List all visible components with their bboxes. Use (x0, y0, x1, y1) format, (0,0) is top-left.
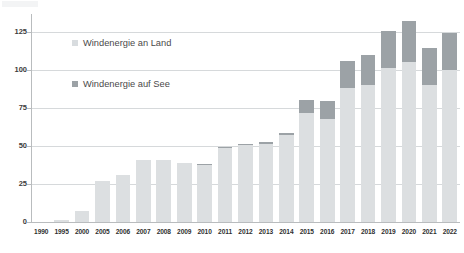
bar-2018 (361, 55, 376, 222)
bar-segment-land-1995 (54, 220, 69, 222)
bar-segment-land-2015 (299, 113, 314, 222)
bar-2014 (279, 133, 294, 222)
bar-segment-land-2012 (238, 145, 253, 222)
x-tick-label-2021: 2021 (419, 228, 439, 235)
x-tick-label-2019: 2019 (378, 228, 398, 235)
bar-segment-sea-2015 (299, 100, 314, 113)
x-tick-label-2000: 2000 (72, 228, 92, 235)
bar-segment-sea-2016 (320, 101, 335, 119)
bar-segment-land-2000 (75, 211, 90, 222)
x-axis-baseline (31, 222, 460, 223)
bar-2007 (136, 160, 151, 222)
legend-item-windenergie-auf-see: Windenergie auf See (72, 79, 170, 89)
bar-2020 (402, 21, 417, 222)
x-tick-label-2006: 2006 (113, 228, 133, 235)
bar-segment-land-2007 (136, 160, 151, 222)
legend-swatch-sea-icon (72, 81, 78, 87)
bar-segment-land-2014 (279, 135, 294, 222)
x-tick-label-2018: 2018 (358, 228, 378, 235)
y-tick-label-100: 100 (0, 65, 27, 74)
bar-2015 (299, 100, 314, 222)
bar-segment-land-2018 (361, 85, 376, 222)
legend-swatch-land-icon (72, 40, 78, 46)
legend-label-sea: Windenergie auf See (83, 79, 170, 89)
bar-segment-land-2021 (422, 85, 437, 222)
bar-2012 (238, 144, 253, 222)
bar-segment-land-2008 (156, 160, 171, 222)
bar-segment-sea-2020 (402, 21, 417, 62)
bar-segment-sea-2022 (442, 33, 457, 71)
x-tick-label-2016: 2016 (317, 228, 337, 235)
bar-segment-sea-2021 (422, 48, 437, 85)
bar-segment-land-2013 (259, 144, 274, 222)
x-tick-label-2010: 2010 (194, 228, 214, 235)
bar-segment-land-2019 (381, 68, 396, 222)
bar-2010 (197, 164, 212, 222)
bar-segment-land-2005 (95, 181, 110, 222)
y-tick-label-75: 75 (0, 103, 27, 112)
bar-2019 (381, 31, 396, 222)
bar-2021 (422, 48, 437, 222)
bar-2008 (156, 160, 171, 222)
legend-label-land: Windenergie an Land (83, 38, 171, 48)
bar-segment-land-2009 (177, 163, 192, 222)
bar-2013 (259, 142, 274, 222)
bar-segment-land-2006 (116, 175, 131, 222)
x-tick-label-2011: 2011 (215, 228, 235, 235)
x-tick-label-2008: 2008 (154, 228, 174, 235)
bar-segment-sea-2011 (218, 147, 233, 148)
bar-2011 (218, 147, 233, 222)
bar-segment-sea-2013 (259, 142, 274, 143)
bar-segment-land-2022 (442, 70, 457, 222)
x-tick-label-2009: 2009 (174, 228, 194, 235)
wind-energy-stacked-bar-chart: 0255075100125 19901995200020052006200720… (0, 0, 464, 253)
y-tick-label-50: 50 (0, 141, 27, 150)
bar-2009 (177, 163, 192, 222)
bar-2005 (95, 181, 110, 222)
x-tick-label-2020: 2020 (399, 228, 419, 235)
bar-segment-sea-2018 (361, 55, 376, 85)
bar-2006 (116, 175, 131, 222)
y-tick-label-0: 0 (0, 217, 27, 226)
x-tick-label-2007: 2007 (133, 228, 153, 235)
y-tick-label-25: 25 (0, 179, 27, 188)
x-tick-label-2012: 2012 (235, 228, 255, 235)
x-tick-label-2015: 2015 (297, 228, 317, 235)
top-left-artifact (2, 1, 38, 7)
x-tick-label-1990: 1990 (31, 228, 51, 235)
bar-segment-land-2017 (340, 88, 355, 222)
x-tick-label-2022: 2022 (440, 228, 460, 235)
bar-1995 (54, 220, 69, 222)
x-tick-label-1995: 1995 (51, 228, 71, 235)
bar-segment-land-2016 (320, 119, 335, 222)
y-tick-label-125: 125 (0, 27, 27, 36)
bar-segment-sea-2019 (381, 31, 396, 69)
bar-2016 (320, 101, 335, 222)
bar-segment-land-2011 (218, 148, 233, 222)
bar-segment-sea-2012 (238, 144, 253, 145)
bar-2017 (340, 61, 355, 222)
x-tick-label-2013: 2013 (256, 228, 276, 235)
x-tick-label-2017: 2017 (337, 228, 357, 235)
legend-item-windenergie-an-land: Windenergie an Land (72, 38, 171, 48)
bar-segment-sea-2014 (279, 133, 294, 135)
bar-segment-land-2020 (402, 62, 417, 222)
bar-2000 (75, 211, 90, 222)
x-tick-label-2005: 2005 (92, 228, 112, 235)
bar-segment-sea-2017 (340, 61, 355, 89)
bar-2022 (442, 33, 457, 222)
bar-segment-land-2010 (197, 165, 212, 222)
x-tick-label-2014: 2014 (276, 228, 296, 235)
